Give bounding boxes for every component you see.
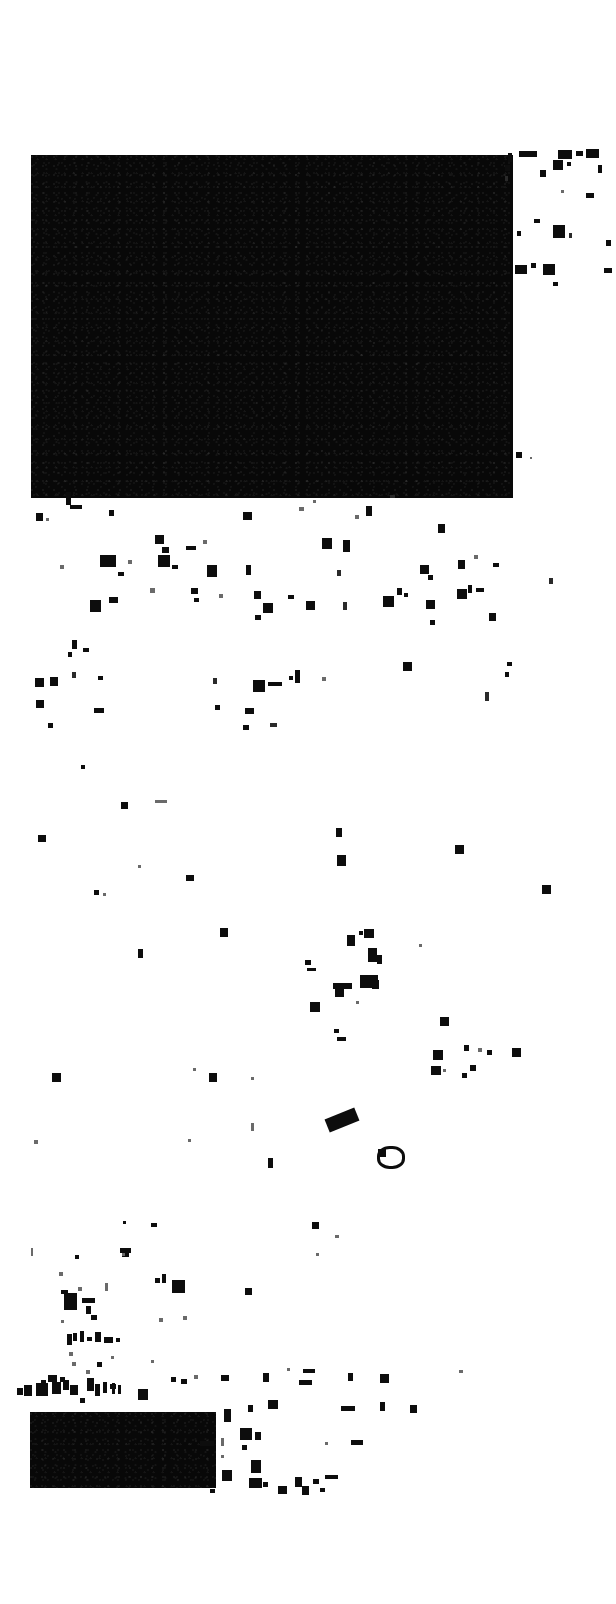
ink-speck	[95, 1332, 101, 1342]
ink-speck	[347, 935, 355, 946]
ink-speck	[138, 1389, 148, 1400]
ink-speck	[553, 282, 558, 286]
ink-speck	[505, 672, 509, 677]
ink-speck	[457, 589, 467, 599]
ink-speck	[213, 678, 217, 684]
ink-speck	[193, 1068, 196, 1071]
ink-speck	[171, 1377, 176, 1382]
ink-speck	[299, 1380, 312, 1385]
ink-speck	[191, 588, 198, 594]
ink-speck	[61, 1290, 68, 1294]
ink-speck	[307, 968, 316, 971]
ink-speck	[606, 240, 611, 246]
ink-speck	[519, 151, 537, 157]
ink-speck	[549, 578, 553, 584]
ink-speck	[52, 1382, 61, 1394]
ink-speck	[430, 620, 435, 625]
ink-speck	[109, 510, 114, 516]
ink-speck	[343, 540, 350, 552]
ink-speck	[289, 676, 293, 680]
ink-speck	[73, 1333, 77, 1341]
ink-speck	[122, 1253, 125, 1256]
ink-speck	[364, 929, 374, 938]
ink-speck	[299, 507, 304, 511]
ink-speck	[162, 1274, 166, 1283]
ink-speck	[150, 588, 155, 593]
ink-speck	[474, 555, 478, 559]
ink-speck	[378, 1149, 386, 1157]
ink-speck	[249, 1478, 262, 1488]
ink-speck	[458, 560, 465, 569]
ink-speck	[542, 885, 551, 894]
ink-speck	[576, 151, 583, 156]
ink-speck	[598, 165, 602, 173]
ink-speck	[540, 170, 546, 177]
ink-speck	[222, 1470, 232, 1481]
ink-speck	[253, 680, 265, 692]
ink-speck	[305, 960, 311, 965]
ink-speck	[104, 1337, 113, 1343]
ink-speck	[455, 845, 464, 854]
ink-speck	[366, 506, 372, 516]
ink-speck	[295, 670, 300, 683]
ink-speck	[306, 601, 315, 610]
ink-speck	[478, 1048, 482, 1052]
ink-speck	[516, 452, 522, 458]
ink-speck	[530, 457, 532, 459]
upper-ink-block	[31, 155, 513, 498]
lower-ink-block	[30, 1412, 216, 1488]
ink-speck	[210, 1489, 215, 1493]
scanned-page	[0, 0, 616, 1604]
ink-speck	[263, 1482, 268, 1487]
ink-speck	[72, 672, 76, 678]
ink-speck	[118, 1385, 121, 1394]
ink-speck	[341, 1406, 355, 1411]
ink-speck	[103, 1382, 107, 1393]
ink-speck	[288, 595, 294, 599]
ink-speck	[312, 1222, 319, 1229]
ink-speck	[220, 928, 228, 937]
ink-speck	[103, 893, 106, 896]
ink-speck	[83, 648, 89, 652]
ink-speck	[72, 1300, 76, 1309]
ink-speck	[515, 265, 527, 274]
ink-speck	[428, 575, 433, 580]
ink-speck	[70, 1385, 78, 1395]
ink-speck	[553, 160, 563, 170]
ink-speck	[489, 613, 496, 621]
ink-speck	[194, 598, 199, 602]
ink-speck	[80, 1331, 84, 1342]
ink-speck	[188, 1139, 191, 1142]
ink-speck	[263, 603, 273, 613]
ink-speck	[476, 588, 484, 592]
ink-speck	[380, 1374, 389, 1383]
ink-speck	[78, 1287, 82, 1291]
ink-speck	[295, 1477, 302, 1487]
ink-speck	[355, 515, 359, 519]
ink-speck	[333, 983, 352, 989]
ink-speck	[41, 1380, 46, 1385]
ink-speck	[337, 855, 346, 866]
ink-speck	[246, 565, 251, 575]
ink-speck	[248, 1405, 253, 1412]
ink-speck	[63, 1380, 69, 1390]
ink-speck	[52, 1073, 61, 1082]
ink-speck	[68, 652, 72, 657]
ink-speck	[70, 505, 82, 509]
ink-speck	[138, 949, 143, 958]
ink-speck	[468, 585, 472, 593]
ink-speck	[155, 1278, 160, 1283]
ink-speck	[95, 1384, 100, 1396]
ink-speck	[86, 1370, 90, 1374]
ink-speck	[98, 676, 103, 680]
ink-speck	[219, 594, 223, 598]
ink-speck	[302, 1486, 309, 1495]
ink-speck	[36, 700, 44, 708]
ink-speck	[485, 692, 489, 701]
ink-speck	[245, 1288, 252, 1295]
ink-speck	[254, 591, 261, 599]
ink-speck	[60, 565, 64, 569]
ink-speck	[100, 555, 116, 567]
ink-speck	[567, 162, 571, 166]
ink-speck	[431, 1066, 441, 1075]
